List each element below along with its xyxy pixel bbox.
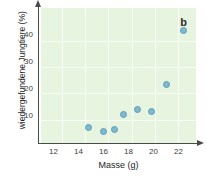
data-point	[148, 108, 155, 115]
x-axis-tick-label: 16	[94, 148, 114, 156]
plot-area: b	[41, 8, 196, 143]
x-axis-title: Masse (g)	[41, 161, 196, 170]
data-point	[111, 126, 118, 133]
data-point	[100, 128, 107, 135]
gridline-horizontal	[41, 120, 196, 121]
x-axis-tick-label: 22	[169, 148, 189, 156]
y-axis-line	[38, 6, 39, 144]
data-point	[85, 124, 92, 131]
data-point	[120, 111, 127, 118]
data-point	[134, 106, 141, 113]
gridline-vertical	[132, 8, 133, 143]
gridline-vertical	[108, 8, 109, 143]
x-axis-arrow-icon	[197, 140, 204, 146]
data-point	[180, 27, 187, 34]
x-axis-tick-label: 12	[44, 148, 64, 156]
x-axis-line	[38, 143, 198, 144]
gridline-vertical	[62, 8, 63, 143]
gridline-horizontal	[41, 93, 196, 94]
gridline-vertical	[155, 8, 156, 143]
x-axis-tick-label: 20	[144, 148, 164, 156]
y-axis-title: wiedergefundene Jungtiere (%)	[18, 0, 27, 140]
x-axis-tick-label: 14	[69, 148, 89, 156]
gridline-vertical	[178, 8, 179, 143]
data-point	[163, 81, 170, 88]
scatter-chart-figure: b 10203040 121416182022 wiedergefundene …	[0, 0, 207, 179]
gridline-horizontal	[41, 67, 196, 68]
gridline-vertical	[85, 8, 86, 143]
gridline-horizontal	[41, 41, 196, 42]
panel-label: b	[180, 17, 187, 28]
x-axis-tick-label: 18	[119, 148, 139, 156]
